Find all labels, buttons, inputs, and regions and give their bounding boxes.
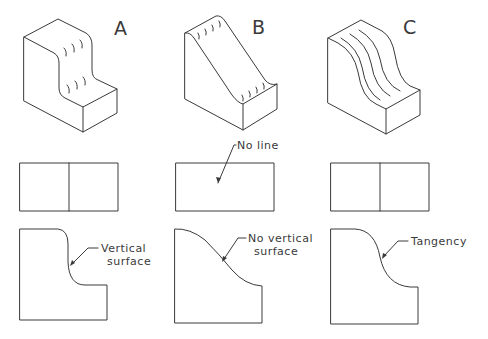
label-a: A [114, 17, 127, 39]
no-line-annotation: No line [237, 139, 279, 152]
no-vertical-surface-annotation-line2: surface [254, 245, 298, 258]
front-view-c [331, 163, 429, 211]
no-vertical-surface-annotation-line1: No vertical [248, 232, 313, 245]
vertical-surface-annotation-line2: surface [107, 255, 151, 268]
front-view-a [20, 163, 118, 211]
top-view-a [20, 229, 107, 320]
arrowhead-icon [70, 260, 75, 266]
label-c: C [403, 16, 416, 38]
tangency-annotation: Tangency [410, 235, 467, 248]
top-view-c [331, 229, 418, 324]
vertical-surface-annotation-line1: Vertical [101, 242, 146, 255]
front-view-b [176, 145, 274, 211]
label-b: B [252, 16, 265, 38]
curved-surfaces-diagram: A B C No line Vertical surface [0, 0, 488, 339]
isometric-view-a [24, 19, 117, 132]
arrowhead-icon [216, 177, 221, 183]
